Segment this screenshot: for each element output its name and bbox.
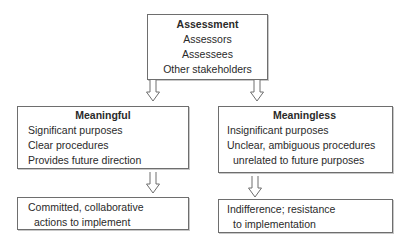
- down-arrow-icon: [146, 80, 160, 102]
- meaningless-item: Unclear, ambiguous procedures: [227, 138, 392, 153]
- meaningless-outcome-text: Indifference; resistance: [227, 202, 392, 217]
- meaningless-outcome-text: to implementation: [227, 217, 392, 232]
- assessment-item: Other stakeholders: [148, 62, 267, 77]
- meaningful-item: Clear procedures: [28, 138, 188, 153]
- down-arrow-icon: [250, 80, 264, 102]
- meaningless-item: unrelated to future purposes: [227, 153, 392, 168]
- meaningful-box: Meaningful Significant purposes Clear pr…: [17, 106, 189, 169]
- assessment-item: Assessors: [148, 32, 267, 47]
- meaningless-box: Meaningless Insignificant purposes Uncle…: [218, 106, 393, 173]
- down-arrow-icon: [248, 176, 262, 198]
- meaningless-item: Insignificant purposes: [227, 123, 392, 138]
- meaningful-item: Provides future direction: [28, 153, 188, 168]
- assessment-box: Assessment Assessors Assessees Other sta…: [147, 14, 268, 80]
- assessment-title: Assessment: [148, 17, 267, 32]
- meaningful-title: Meaningful: [28, 108, 188, 123]
- meaningful-item: Significant purposes: [28, 123, 188, 138]
- meaningful-outcome-text: actions to implement: [28, 215, 188, 230]
- meaningful-outcome-text: Committed, collaborative: [28, 200, 188, 215]
- meaningless-title: Meaningless: [227, 108, 392, 123]
- meaningless-outcome-box: Indifference; resistance to implementati…: [218, 199, 393, 233]
- meaningful-outcome-box: Committed, collaborative actions to impl…: [17, 197, 189, 230]
- down-arrow-icon: [146, 172, 160, 194]
- assessment-item: Assessees: [148, 47, 267, 62]
